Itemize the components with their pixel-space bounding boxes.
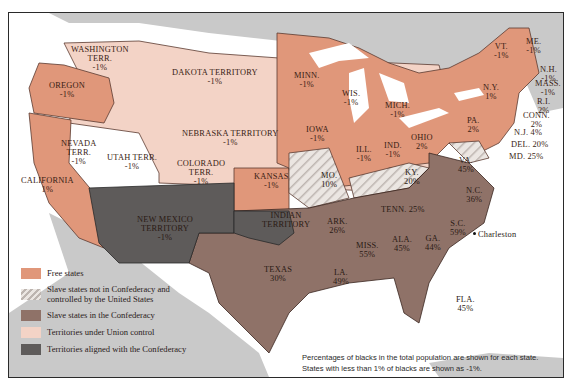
label-utah: UTAH TERR.-1% [107,153,157,171]
label-ind: IND.-1% [384,141,402,159]
label-mo: MO.10% [321,171,337,189]
legend: Free states Slave states not in Confeder… [21,268,186,361]
label-ga: GA.44% [425,234,441,252]
label-md: MD. 25% [509,152,543,161]
charleston-marker [473,232,476,235]
label-ohio: OHIO2% [411,133,433,151]
label-indian-territory: INDIANTERRITORY [262,211,310,229]
label-charleston: Charleston [478,230,516,239]
label-dakota: DAKOTA TERRITORY-1% [172,68,258,86]
label-pa: PA.2% [467,116,480,134]
legend-swatch [21,310,41,321]
label-conn: CONN.2% [523,111,550,129]
map-frame: WASHINGTONTERR.-1% DAKOTA TERRITORY-1% O… [8,12,564,378]
label-fla: FLA.45% [456,295,475,313]
label-washington: WASHINGTONTERR.-1% [71,45,129,72]
label-ala: ALA.45% [392,235,412,253]
label-me: ME.-1% [526,37,541,55]
label-del: DEL. 20% [511,140,548,149]
label-iowa: IOWA-1% [306,125,329,143]
label-nevada: NEVADATERR.-1% [61,139,96,166]
label-ill: ILL.-1% [356,145,372,163]
label-ky: KY.20% [404,168,420,186]
label-ny: N.Y.1% [483,83,499,101]
legend-item-slave-confederacy: Slave states in the Confederacy [21,310,186,321]
label-nc: N.C.36% [466,186,483,204]
label-va: VA.45% [458,156,474,174]
label-kansas: KANSAS-1% [254,172,289,190]
legend-swatch [21,327,41,338]
label-wis: WIS.-1% [342,89,360,107]
legend-swatch [21,344,41,355]
label-mich: MICH.-1% [385,101,410,119]
label-la: LA.49% [333,268,349,286]
label-colorado: COLORADOTERR.-1% [177,159,225,186]
label-miss: MISS.55% [356,241,379,259]
legend-item-territory-union: Territories under Union control [21,327,186,338]
label-new-mexico: NEW MEXICOTERRITORY-1% [137,215,193,242]
label-ark: ARK.26% [327,217,348,235]
label-nj: N.J. 4% [514,128,542,137]
label-vt: VT.-1% [494,42,509,60]
label-california: CALIFORNIA1% [21,176,74,194]
legend-item-slave-union: Slave states not in Confederacy andcontr… [21,285,186,304]
label-minn: MINN.-1% [294,71,319,89]
legend-item-free-states: Free states [21,268,186,279]
label-mass: MASS.-1% [535,79,561,97]
label-tenn: TENN. 25% [381,205,425,214]
map-note: Percentages of blacks in the total popul… [302,352,538,374]
legend-swatch [21,268,41,279]
label-nebraska: NEBRASKA TERRITORY-1% [182,129,279,147]
label-texas: TEXAS30% [264,265,292,283]
label-sc: S.C.59% [450,219,466,237]
legend-swatch [21,289,41,300]
legend-item-territory-confederacy: Territories aligned with the Confederacy [21,344,186,355]
label-oregon: OREGON-1% [49,81,85,99]
